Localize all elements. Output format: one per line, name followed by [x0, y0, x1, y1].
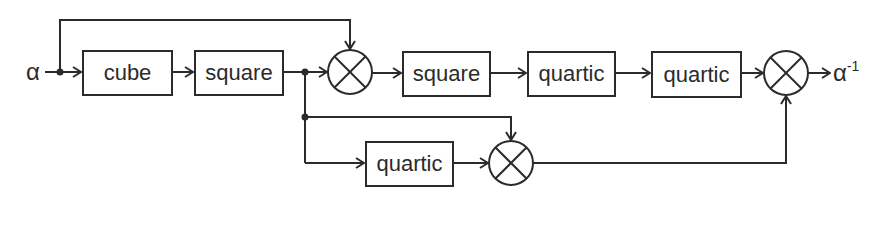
block-square-2: square — [402, 51, 491, 97]
block-label: square — [205, 60, 272, 86]
output-label: α-1 — [833, 61, 859, 85]
junction-dot — [302, 69, 309, 76]
block-label: quartic — [538, 61, 604, 87]
junction-dot — [57, 69, 64, 76]
block-label: square — [413, 61, 480, 87]
output-base: α — [833, 59, 847, 86]
block-quartic-1: quartic — [527, 51, 616, 97]
block-quartic-3: quartic — [365, 141, 454, 187]
multiplier-mult1 — [328, 50, 372, 94]
output-superscript: -1 — [847, 58, 859, 74]
block-square-1: square — [194, 50, 284, 96]
block-label: quartic — [663, 62, 729, 88]
multiplier-mult2 — [489, 141, 533, 185]
junction-dot — [302, 114, 309, 121]
multiplier-mult3 — [764, 51, 808, 95]
block-quartic-2: quartic — [651, 51, 742, 98]
block-label: quartic — [376, 151, 442, 177]
block-cube: cube — [82, 50, 173, 96]
input-label: α — [26, 60, 40, 84]
block-label: cube — [104, 60, 152, 86]
